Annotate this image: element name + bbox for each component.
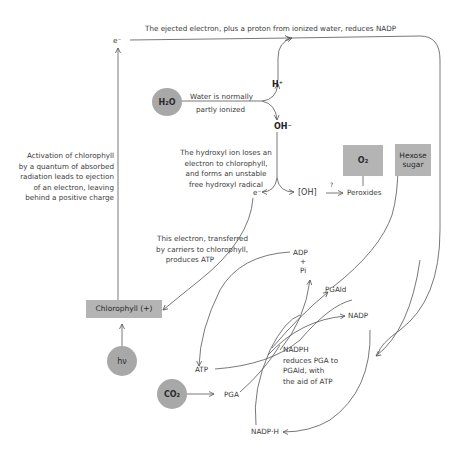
water-annotation-line1: Water is normally bbox=[190, 92, 253, 102]
atp-label: ATP bbox=[195, 365, 208, 375]
hydroxyl-radical-label: [OH] bbox=[298, 188, 317, 198]
pi-label: Pi bbox=[300, 266, 306, 276]
hexose-sugar-box: Hexose sugar bbox=[395, 144, 431, 176]
activation-line: by a quantum of absorbed bbox=[8, 162, 114, 173]
proton-label: H⁺ bbox=[272, 80, 283, 90]
activation-line: radiation leads to ejection bbox=[8, 172, 114, 183]
pga-label: PGA bbox=[224, 390, 239, 400]
electron-transfer-line: This electron, transferred bbox=[150, 234, 248, 245]
electron-to-top-arrow bbox=[130, 38, 290, 40]
electron-transfer-line: by carriers to chlorophyll, bbox=[150, 245, 248, 256]
hydroxyl-line: The hydroxyl ion loses an bbox=[178, 148, 274, 159]
nadph-line: reduces PGA to bbox=[283, 356, 338, 367]
electron-top-label: e⁻ bbox=[113, 36, 121, 46]
nadph-line: NADPH bbox=[283, 345, 338, 356]
electron-transfer-line: produces ATP bbox=[150, 255, 248, 266]
chlorophyll-box: Chlorophyll (+) bbox=[86, 300, 162, 318]
question-mark-label: ? bbox=[330, 180, 333, 190]
water-annotation-line2: partly ionized bbox=[196, 105, 245, 115]
top-caption: The ejected electron, plus a proton from… bbox=[145, 24, 396, 34]
pgald-label: PGAld bbox=[325, 285, 346, 295]
nadph-line: the aid of ATP bbox=[283, 377, 338, 388]
hexose-line2: sugar bbox=[402, 160, 423, 170]
activation-line: of an electron, leaving bbox=[8, 183, 114, 194]
hydroxyl-line: electron to chlorophyll, bbox=[178, 159, 274, 170]
hydroxide-label: OH⁻ bbox=[274, 122, 292, 132]
nadph-h-label: NADP·H bbox=[251, 427, 279, 437]
water-node: H₂O bbox=[152, 88, 182, 116]
hydroxyl-line: and forms an unstable bbox=[178, 169, 274, 180]
hydroxyl-annotation: The hydroxyl ion loses an electron to ch… bbox=[178, 148, 274, 190]
light-quantum-node: hν bbox=[107, 346, 137, 376]
activation-line: behind a positive charge bbox=[8, 193, 114, 204]
activation-line: Activation of chlorophyll bbox=[8, 151, 114, 162]
activation-annotation: Activation of chlorophyll by a quantum o… bbox=[8, 151, 114, 204]
nadph-line: PGAld, with bbox=[283, 366, 338, 377]
carbon-dioxide-node: CO₂ bbox=[157, 379, 187, 409]
nadp-label: NADP bbox=[348, 311, 368, 321]
oxygen-box: O₂ bbox=[343, 145, 383, 176]
peroxides-label: Peroxides bbox=[347, 188, 381, 198]
electron-transfer-annotation: This electron, transferred by carriers t… bbox=[150, 234, 248, 266]
nadph-annotation: NADPH reduces PGA to PGAld, with the aid… bbox=[283, 345, 338, 387]
hexose-line1: Hexose bbox=[399, 151, 426, 161]
electron-mid-label: e⁻ bbox=[253, 188, 261, 198]
